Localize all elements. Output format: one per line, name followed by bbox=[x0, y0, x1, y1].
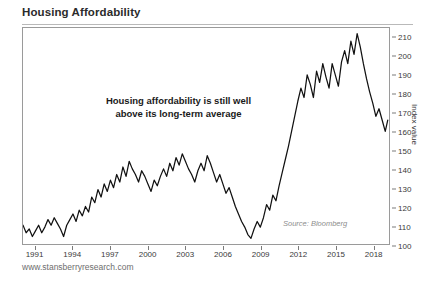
y-tick-label: 100 bbox=[398, 242, 411, 251]
source-note: Source: Bloomberg bbox=[283, 219, 347, 228]
annotation-line-2: above its long-term average bbox=[71, 107, 286, 120]
y-tick-label: 120 bbox=[398, 204, 411, 213]
title-divider bbox=[22, 24, 413, 25]
housing-affordability-series bbox=[23, 34, 388, 239]
y-tick-label: 200 bbox=[398, 52, 411, 61]
x-tick-label: 2000 bbox=[139, 250, 157, 259]
y-tick-label: 110 bbox=[398, 223, 411, 232]
x-tick-label: 2015 bbox=[327, 250, 345, 259]
x-tick-label: 2006 bbox=[214, 250, 232, 259]
y-tick-label: 180 bbox=[398, 90, 411, 99]
y-tick-mark bbox=[392, 37, 396, 38]
y-tick-mark bbox=[392, 56, 396, 57]
y-tick-mark bbox=[392, 94, 396, 95]
x-tick-label: 2012 bbox=[289, 250, 307, 259]
page-title: Housing Affordability bbox=[22, 6, 141, 18]
y-tick-mark bbox=[392, 189, 396, 190]
y-tick-mark bbox=[392, 113, 396, 114]
y-tick-mark bbox=[392, 151, 396, 152]
y-axis-title: Index value bbox=[410, 104, 419, 145]
x-tick-label: 1991 bbox=[26, 250, 44, 259]
x-tick-label: 2009 bbox=[252, 250, 270, 259]
x-tick-label: 2018 bbox=[365, 250, 383, 259]
y-tick-mark bbox=[392, 170, 396, 171]
y-tick-label: 150 bbox=[398, 147, 411, 156]
annotation-line-1: Housing affordability is still well bbox=[71, 94, 286, 107]
y-tick-mark bbox=[392, 227, 396, 228]
chart-annotation: Housing affordability is still well abov… bbox=[71, 94, 286, 120]
x-tick-label: 1997 bbox=[101, 250, 119, 259]
y-tick-mark bbox=[392, 208, 396, 209]
y-tick-mark bbox=[392, 132, 396, 133]
y-tick-label: 210 bbox=[398, 33, 411, 42]
y-tick-label: 190 bbox=[398, 71, 411, 80]
y-tick-mark bbox=[392, 75, 396, 76]
plot-area: Housing affordability is still well abov… bbox=[22, 27, 390, 245]
x-tick-label: 1994 bbox=[63, 250, 81, 259]
y-tick-label: 140 bbox=[398, 166, 411, 175]
line-chart-svg bbox=[23, 28, 389, 244]
x-tick-label: 2003 bbox=[176, 250, 194, 259]
y-tick-label: 130 bbox=[398, 185, 411, 194]
x-axis: 1991199419972000200320062009201220152018 bbox=[22, 246, 390, 262]
chart-page: Housing Affordability Housing affordabil… bbox=[0, 0, 439, 281]
footer-url: www.stansberryresearch.com bbox=[22, 262, 133, 272]
y-tick-mark bbox=[392, 246, 396, 247]
